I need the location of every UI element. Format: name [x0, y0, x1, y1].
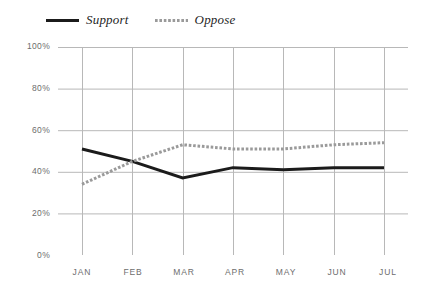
x-axis-tick-label: APR [213, 268, 257, 277]
legend-label-oppose: Oppose [195, 12, 236, 28]
plot-area [58, 47, 408, 255]
y-axis-tick-label: 40% [4, 167, 50, 176]
y-axis-tick-label: 100% [4, 42, 50, 51]
legend-item-support: Support [46, 12, 129, 28]
legend-item-oppose: Oppose [155, 12, 236, 28]
y-axis-tick-label: 60% [4, 126, 50, 135]
dotted-line-swatch [155, 14, 188, 26]
x-axis-tick-label: JUL [366, 268, 410, 277]
x-axis-tick-label: MAR [162, 268, 206, 277]
x-axis-tick-label: JUN [315, 268, 359, 277]
plot-svg [58, 47, 408, 255]
grid-lines [58, 47, 408, 255]
x-axis-tick-label: MAY [264, 268, 308, 277]
solid-line-swatch [46, 14, 79, 26]
y-axis-tick-label: 20% [4, 209, 50, 218]
x-axis-tick-label: FEB [111, 268, 155, 277]
y-axis-tick-label: 80% [4, 84, 50, 93]
legend-label-support: Support [86, 12, 129, 28]
line-chart: Support Oppose 100% 80% 60% 40% 20% 0% J… [0, 0, 436, 293]
y-axis-tick-label: 0% [4, 251, 50, 260]
chart-legend: Support Oppose [46, 11, 262, 29]
x-axis-tick-label: JAN [60, 268, 104, 277]
